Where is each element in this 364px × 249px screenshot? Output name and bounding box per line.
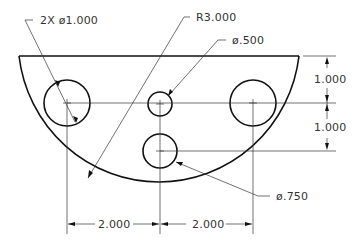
leader-2x-dia [25,20,78,123]
vertical-dimension [325,57,329,150]
dim-horizontal-left: 2.000 [98,218,131,231]
technical-drawing: 1.000 1.000 2.000 2.000 2X ø1.000 R3.000… [0,0,364,249]
label-medium-hole: ø.750 [276,190,308,203]
leader-small-hole [168,40,226,96]
dim-horizontal-right: 2.000 [192,218,225,231]
centerlines [63,56,336,234]
part-outline [19,56,299,182]
dim-vertical-bottom: 1.000 [314,121,347,134]
label-2x-dia: 2X ø1.000 [40,14,98,27]
label-radius: R3.000 [196,11,236,24]
dim-vertical-top: 1.000 [314,73,347,86]
leader-radius [88,17,190,178]
label-small-hole: ø.500 [232,34,264,47]
